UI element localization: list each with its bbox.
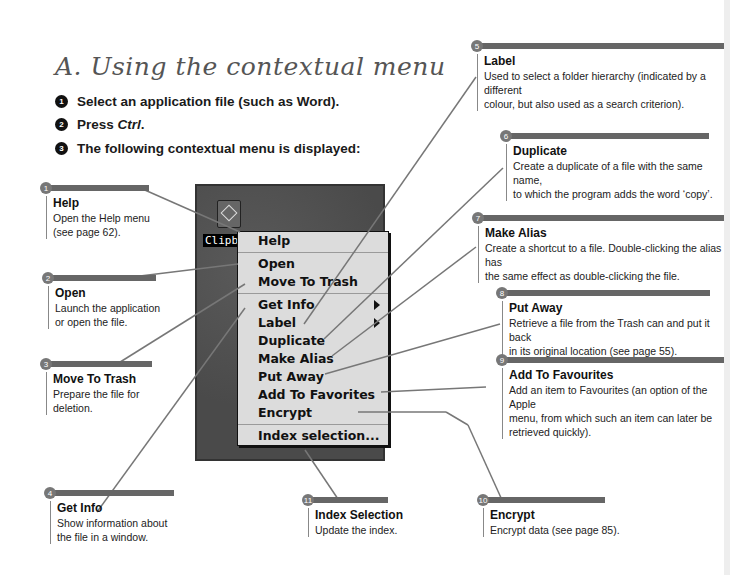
callout-line: to which the program adds the word ‘copy…: [513, 187, 728, 201]
callout-line: or open the file.: [55, 315, 175, 329]
callout-body: Label Used to select a folder hierarchy …: [477, 54, 730, 111]
callout-body: Move To Trash Prepare the file for delet…: [46, 372, 163, 415]
callout-bar: [476, 215, 724, 221]
callout-bar: [500, 357, 726, 363]
callout-number: 9: [496, 354, 508, 366]
callout-line: the file in a window.: [57, 530, 187, 544]
menu-item-open[interactable]: Open: [238, 255, 388, 273]
callout-heading: Help: [53, 196, 163, 211]
page-edge: [724, 0, 730, 575]
menu-item-label: Label: [258, 315, 296, 330]
callout-number: 3: [40, 358, 52, 370]
callout-line: deletion.: [53, 401, 163, 415]
menu-item-label: Move To Trash: [258, 274, 358, 289]
callout-line: Encrypt data (see page 85).: [490, 523, 640, 537]
callout-bar: [306, 497, 388, 503]
callout-heading: Put Away: [509, 301, 729, 316]
callout-heading: Get Info: [57, 501, 187, 516]
callout-bar: [44, 361, 152, 367]
contextual-menu: Help Open Move To Trash Get Info Label D…: [237, 231, 389, 446]
callout-line: retrieved quickly).: [509, 425, 730, 439]
menu-item-make-alias[interactable]: Make Alias: [238, 350, 388, 368]
callout-number: 10: [477, 494, 489, 506]
menu-item-get-info[interactable]: Get Info: [238, 296, 388, 314]
callout-line: Prepare the file for: [53, 387, 163, 401]
callout-line: menu, from which such an item can later …: [509, 411, 730, 425]
callout-line: Retrieve a file from the Trash can and p…: [509, 316, 729, 344]
menu-item-index-selection[interactable]: Index selection...: [238, 427, 388, 445]
callout-line: Create a shortcut to a file. Double-clic…: [485, 241, 730, 269]
callout-heading: Encrypt: [490, 508, 640, 523]
callout-bar: [48, 490, 174, 496]
callout-body: Help Open the Help menu (see page 62).: [46, 196, 163, 239]
desktop-screenshot: Clipbo Help Open Move To Trash Get Info …: [195, 184, 385, 461]
menu-item-label: Open: [258, 256, 295, 271]
step-number: 1: [55, 95, 68, 108]
callout-body: Add To Favourites Add an item to Favouri…: [502, 368, 730, 439]
callout-line: (see page 62).: [53, 225, 163, 239]
menu-item-duplicate[interactable]: Duplicate: [238, 332, 388, 350]
step-3: 3 The following contextual menu is displ…: [55, 141, 361, 156]
page-title: A. Using the contextual menu: [55, 52, 446, 81]
callout-number: 1: [40, 182, 52, 194]
menu-separator: [238, 293, 388, 294]
key-name: Ctrl: [118, 117, 141, 132]
callout-heading: Duplicate: [513, 144, 728, 159]
callout-body: Make Alias Create a shortcut to a file. …: [478, 226, 730, 283]
callout-heading: Open: [55, 286, 175, 301]
step-number: 2: [55, 118, 68, 131]
menu-item-help[interactable]: Help: [238, 232, 388, 250]
step-text-suffix: .: [141, 117, 145, 132]
menu-item-label: Get Info: [258, 297, 315, 312]
menu-item-encrypt[interactable]: Encrypt: [238, 404, 388, 422]
callout-body: Put Away Retrieve a file from the Trash …: [502, 301, 729, 358]
menu-separator: [238, 424, 388, 425]
step-text-prefix: Press: [77, 117, 118, 132]
callout-number: 6: [500, 130, 512, 142]
menu-item-label: Add To Favorites: [258, 387, 375, 402]
callout-bar: [481, 497, 605, 503]
step-1: 1 Select an application file (such as Wo…: [55, 94, 339, 109]
callout-line: Open the Help menu: [53, 211, 163, 225]
menu-item-label: Encrypt: [258, 405, 312, 420]
callout-bar: [44, 185, 149, 191]
menu-item-label: Duplicate: [258, 333, 325, 348]
callout-heading: Index Selection: [315, 508, 415, 523]
step-text: Select an application file (such as Word…: [77, 94, 339, 109]
submenu-arrow-icon: [374, 318, 380, 328]
callout-bar: [46, 275, 156, 281]
callout-line: the same effect as double-clicking the f…: [485, 269, 730, 283]
menu-item-move-to-trash[interactable]: Move To Trash: [238, 273, 388, 291]
callout-line: in its original location (see page 55).: [509, 344, 729, 358]
callout-body: Open Launch the application or open the …: [48, 286, 175, 329]
menu-item-put-away[interactable]: Put Away: [238, 368, 388, 386]
submenu-arrow-icon: [374, 300, 380, 310]
callout-line: Show information about: [57, 516, 187, 530]
clipboard-icon[interactable]: [217, 200, 241, 228]
callout-heading: Add To Favourites: [509, 368, 730, 383]
callout-heading: Make Alias: [485, 226, 730, 241]
callout-heading: Label: [484, 54, 730, 69]
callout-line: Add an item to Favourites (an option of …: [509, 383, 730, 411]
menu-item-add-to-favorites[interactable]: Add To Favorites: [238, 386, 388, 404]
callout-bar: [500, 290, 710, 296]
step-number: 3: [55, 142, 68, 155]
callout-number: 11: [302, 494, 314, 506]
menu-item-label[interactable]: Label: [238, 314, 388, 332]
step-text: The following contextual menu is display…: [77, 141, 361, 156]
callout-body: Encrypt Encrypt data (see page 85).: [483, 508, 640, 537]
menu-item-label: Help: [258, 233, 290, 248]
menu-item-label: Make Alias: [258, 351, 334, 366]
callout-line: Create a duplicate of a file with the sa…: [513, 159, 728, 187]
step-text: Press Ctrl.: [77, 117, 145, 132]
file-label[interactable]: Clipbo: [203, 234, 237, 247]
step-2: 2 Press Ctrl.: [55, 117, 145, 132]
callout-line: Update the index.: [315, 523, 415, 537]
callout-body: Get Info Show information about the file…: [50, 501, 187, 544]
callout-bar: [504, 133, 709, 139]
callout-line: colour, but also used as a search criter…: [484, 97, 730, 111]
callout-body: Duplicate Create a duplicate of a file w…: [506, 144, 728, 201]
callout-heading: Move To Trash: [53, 372, 163, 387]
callout-line: Launch the application: [55, 301, 175, 315]
menu-item-label: Index selection...: [258, 428, 379, 443]
